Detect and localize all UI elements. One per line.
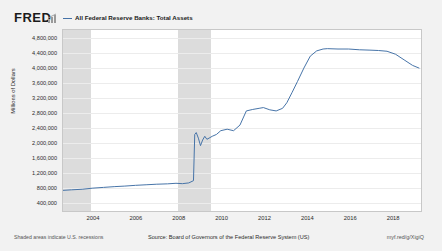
source-note: Source: Board of Governors of the Federa…	[148, 233, 309, 241]
y-axis-title: Millions of Dollars	[10, 68, 16, 113]
short-link[interactable]: myf.red/g/XigiQ	[387, 233, 424, 241]
chart-header: FRED All Federal Reserve Banks: Total As…	[0, 0, 442, 28]
y-axis-tick: 4,800,000	[32, 34, 57, 41]
series-polyline	[63, 49, 419, 191]
x-axis-tick: 2014	[301, 214, 314, 222]
y-axis-tick: 2,400,000	[32, 125, 57, 132]
x-axis-tick-labels: 20042006200820102012201420162018	[62, 214, 422, 224]
x-axis-tick: 2004	[87, 214, 100, 222]
legend-line-swatch-icon	[63, 18, 72, 19]
x-axis-tick: 2006	[129, 214, 142, 222]
y-axis-tick: 2,800,000	[32, 109, 57, 116]
chart-legend[interactable]: All Federal Reserve Banks: Total Assets	[63, 12, 193, 24]
y-axis-tick: 3,200,000	[32, 94, 57, 101]
x-axis-tick: 2008	[172, 214, 185, 222]
y-axis-tick-labels: 4,800,0004,400,0004,000,0003,600,0003,20…	[0, 29, 60, 212]
x-axis-tick: 2016	[344, 214, 357, 222]
chart-footer: Shaded areas indicate U.S. recessions So…	[0, 233, 442, 245]
x-axis-tick: 2012	[258, 214, 271, 222]
recession-note: Shaded areas indicate U.S. recessions	[14, 233, 103, 241]
plot-area	[62, 29, 422, 212]
y-axis-tick: 3,600,000	[32, 79, 57, 86]
y-axis-tick: 1,200,000	[32, 170, 57, 177]
y-axis-tick: 800,000	[37, 185, 57, 192]
fred-logo[interactable]: FRED	[14, 11, 51, 24]
y-axis-tick: 4,000,000	[32, 64, 57, 71]
legend-series-label: All Federal Reserve Banks: Total Assets	[75, 14, 193, 22]
y-axis-tick: 2,000,000	[32, 140, 57, 147]
y-axis-tick: 400,000	[37, 200, 57, 207]
y-axis-tick: 1,600,000	[32, 155, 57, 162]
fred-chart-screenshot: FRED All Federal Reserve Banks: Total As…	[0, 0, 442, 251]
x-axis-tick: 2018	[387, 214, 400, 222]
fred-chart-mark-icon	[48, 13, 59, 23]
series-line-chart	[63, 30, 421, 211]
x-axis-tick: 2010	[215, 214, 228, 222]
y-axis-tick: 4,400,000	[32, 49, 57, 56]
